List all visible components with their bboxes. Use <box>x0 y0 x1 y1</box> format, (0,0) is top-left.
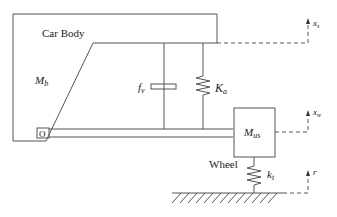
road-reference-line <box>283 174 308 193</box>
damper-label: fv <box>138 81 145 95</box>
xs-label: xs <box>312 18 320 29</box>
spring-ka-label: Ka <box>214 81 227 96</box>
pivot-label: O <box>39 129 46 139</box>
r-label: r <box>313 167 317 177</box>
tire-spring-label: kt <box>267 168 275 182</box>
spring-ka <box>196 43 210 129</box>
xw-arrow-icon <box>306 110 310 116</box>
wheel-label: Wheel <box>209 158 238 170</box>
xw-label: xw <box>312 107 321 118</box>
ground <box>172 193 283 203</box>
xs-arrow-icon <box>306 18 310 24</box>
body-mass-label: Mb <box>34 74 48 88</box>
body-reference-line <box>217 22 308 43</box>
r-arrow-icon <box>306 170 310 176</box>
spring-kt <box>247 157 261 193</box>
unsprung-mass-label: Mus <box>243 126 260 140</box>
car-body-label: Car Body <box>42 27 85 39</box>
suspension-diagram: Car Body Mb fv Ka Mus Wheel kt O xs xw r <box>0 0 337 217</box>
wheel-reference-line <box>275 114 308 132</box>
damper <box>151 43 176 129</box>
